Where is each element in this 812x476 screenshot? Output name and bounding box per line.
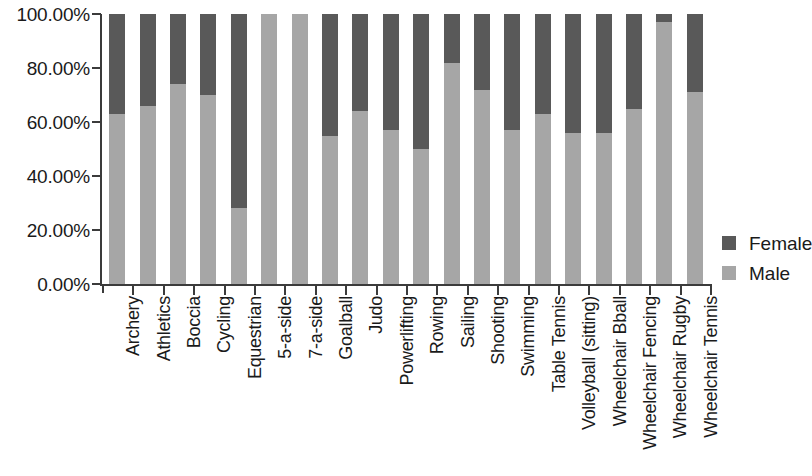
bar-segment-male[interactable] [140,106,156,284]
x-axis-tick-label: Goalball [337,296,355,360]
bar-segment-male[interactable] [322,136,338,285]
x-axis-tick-label: Wheelchair Tennis [702,296,720,438]
bar-segment-female[interactable] [413,14,429,149]
x-axis-tick-label: Wheelchair Rugby [671,296,689,438]
bar-segment-female[interactable] [200,14,216,95]
bar-segment-female[interactable] [535,14,551,114]
x-axis-end-cap [710,284,712,293]
x-axis-start-cap [102,284,104,293]
y-axis-tick-mark [92,67,101,69]
bar-segment-male[interactable] [200,95,216,284]
legend-swatch-icon [722,236,736,250]
x-axis-tick-label: Wheelchair Bball [611,296,629,426]
bar-column[interactable] [626,14,642,284]
y-axis-tick-label: 20.00% [27,221,90,240]
bar-segment-female[interactable] [687,14,703,92]
bar-column[interactable] [170,14,186,284]
plot-area [102,14,710,284]
bar-segment-female[interactable] [322,14,338,136]
x-axis-tick-mark [224,286,226,295]
bar-segment-female[interactable] [504,14,520,130]
bar-segment-male[interactable] [109,114,125,284]
y-axis: 100.00%80.00%60.00%40.00%20.00%0.00% [0,0,96,296]
bar-segment-male[interactable] [656,22,672,284]
legend-item[interactable]: Female [722,228,812,258]
bar-segment-female[interactable] [596,14,612,133]
x-axis-tick-mark [467,286,469,295]
x-axis-tick-mark [284,286,286,295]
bar-segment-female[interactable] [656,14,672,22]
bar-column[interactable] [535,14,551,284]
bar-segment-male[interactable] [383,130,399,284]
bar-column[interactable] [656,14,672,284]
x-axis-tick-label: Cycling [215,296,233,353]
bar-column[interactable] [383,14,399,284]
bar-column[interactable] [322,14,338,284]
bar-column[interactable] [109,14,125,284]
x-axis-tick-label: Wheelchair Fencing [641,296,659,450]
bar-segment-male[interactable] [231,208,247,284]
bar-segment-female[interactable] [352,14,368,111]
bar-column[interactable] [687,14,703,284]
bar-column[interactable] [292,14,308,284]
bar-segment-male[interactable] [535,114,551,284]
bar-segment-female[interactable] [474,14,490,90]
x-axis-tick-mark [680,286,682,295]
bar-segment-male[interactable] [444,63,460,284]
bar-column[interactable] [352,14,368,284]
y-axis-tick-label: 100.00% [16,5,90,24]
bar-segment-male[interactable] [292,14,308,284]
bar-column[interactable] [596,14,612,284]
x-axis-tick-label: Table Tennis [550,296,568,392]
bar-segment-male[interactable] [413,149,429,284]
bar-segment-female[interactable] [140,14,156,106]
x-axis-tick-mark [497,286,499,295]
x-axis-tick-mark [315,286,317,295]
x-axis-tick-mark [588,286,590,295]
bar-column[interactable] [504,14,520,284]
bar-column[interactable] [200,14,216,284]
legend-label: Male [749,264,790,283]
y-axis-tick-mark [92,283,101,285]
bar-segment-female[interactable] [626,14,642,109]
bar-column[interactable] [140,14,156,284]
bar-segment-female[interactable] [109,14,125,114]
bar-segment-male[interactable] [170,84,186,284]
chart-legend: FemaleMale [722,228,812,288]
x-axis-tick-mark [193,286,195,295]
x-axis-tick-mark [132,286,134,295]
x-axis-tick-mark [558,286,560,295]
x-axis-tick-mark [528,286,530,295]
bar-segment-female[interactable] [231,14,247,208]
legend-item[interactable]: Male [722,258,812,288]
bar-segment-male[interactable] [626,109,642,285]
bar-column[interactable] [413,14,429,284]
bar-segment-male[interactable] [474,90,490,284]
bar-segment-male[interactable] [565,133,581,284]
bar-column[interactable] [261,14,277,284]
bar-segment-female[interactable] [170,14,186,84]
x-axis-tick-label: Archery [124,296,142,356]
bar-column[interactable] [444,14,460,284]
x-axis-tick-mark [436,286,438,295]
x-axis-tick-mark [649,286,651,295]
x-axis-tick-label: Powerlifting [398,296,416,385]
bar-segment-male[interactable] [261,14,277,284]
x-axis-tick-label: Equestrian [246,296,264,379]
y-axis-tick-mark [92,229,101,231]
x-axis-tick-label: Boccia [185,296,203,348]
bar-segment-male[interactable] [504,130,520,284]
bar-segment-female[interactable] [383,14,399,130]
x-axis-tick-label: Volleyball (sitting) [580,296,598,430]
bar-column[interactable] [474,14,490,284]
bar-segment-female[interactable] [444,14,460,63]
x-axis-tick-label: 7-a-side [307,296,325,359]
bar-column[interactable] [231,14,247,284]
bar-segment-male[interactable] [596,133,612,284]
bar-segment-male[interactable] [352,111,368,284]
bar-column[interactable] [565,14,581,284]
bar-segment-female[interactable] [565,14,581,133]
y-axis-tick-label: 60.00% [27,113,90,132]
bar-segment-male[interactable] [687,92,703,284]
